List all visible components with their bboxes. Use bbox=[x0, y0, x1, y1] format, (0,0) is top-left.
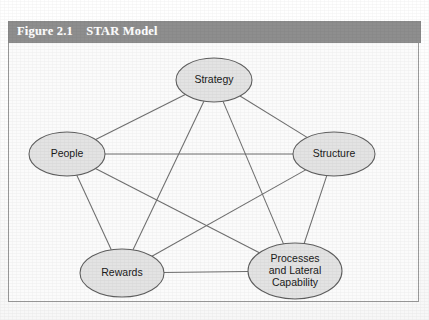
node-label-people: People bbox=[51, 147, 84, 159]
edge-structure-processes bbox=[304, 176, 327, 244]
edge-rewards-processes bbox=[164, 272, 248, 273]
figure-panel: StrategyPeopleStructureRewardsProcessesa… bbox=[8, 43, 419, 302]
node-strategy[interactable]: Strategy bbox=[176, 58, 252, 102]
edge-people-rewards bbox=[77, 175, 111, 250]
nodes-group: StrategyPeopleStructureRewardsProcessesa… bbox=[29, 58, 375, 299]
edge-strategy-people bbox=[96, 94, 186, 139]
node-label-processes: Capability bbox=[272, 276, 319, 288]
figure-root: Figure 2.1 STAR Model StrategyPeopleStru… bbox=[0, 0, 429, 320]
node-label-processes: Processes bbox=[270, 252, 319, 264]
star-model-diagram: StrategyPeopleStructureRewardsProcessesa… bbox=[9, 43, 420, 302]
edge-strategy-processes bbox=[223, 101, 283, 243]
figure-caption-text: Figure 2.1 STAR Model bbox=[17, 24, 158, 39]
edge-strategy-rewards bbox=[133, 101, 204, 250]
edge-structure-rewards bbox=[152, 170, 306, 256]
node-label-strategy: Strategy bbox=[194, 73, 234, 85]
node-label-rewards: Rewards bbox=[101, 266, 142, 278]
node-structure[interactable]: Structure bbox=[293, 132, 375, 176]
edge-people-processes bbox=[95, 169, 259, 253]
node-people[interactable]: People bbox=[29, 132, 105, 176]
node-rewards[interactable]: Rewards bbox=[80, 249, 164, 297]
node-label-processes: and Lateral bbox=[269, 264, 322, 276]
node-label-structure: Structure bbox=[313, 147, 356, 159]
edge-strategy-structure bbox=[240, 96, 307, 137]
node-processes[interactable]: Processesand LateralCapability bbox=[248, 243, 342, 299]
